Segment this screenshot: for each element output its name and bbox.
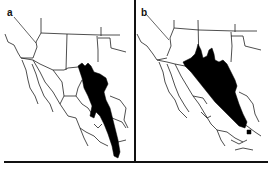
state-border	[167, 28, 174, 56]
figure: a	[0, 0, 269, 171]
state-border	[86, 132, 108, 146]
state-border	[231, 36, 261, 50]
label-leader-line	[146, 14, 169, 40]
state-border	[41, 18, 120, 35]
range-shading-b	[183, 44, 247, 128]
range-outlier-b	[247, 130, 251, 134]
range-shading-a	[78, 63, 120, 158]
state-border	[174, 20, 257, 31]
state-border	[97, 36, 98, 62]
state-border	[94, 124, 102, 128]
panel-b: b	[135, 0, 269, 162]
figure-baseline	[4, 161, 268, 163]
state-border	[193, 96, 207, 104]
panel-label-a: a	[7, 8, 13, 18]
state-border	[66, 34, 67, 70]
state-border	[64, 96, 82, 104]
map-a	[0, 0, 134, 162]
us-mexico-border	[21, 58, 84, 70]
state-border	[231, 32, 232, 62]
gulf-coast	[167, 64, 189, 112]
state-border	[76, 80, 82, 96]
baja-coast	[159, 62, 187, 118]
state-border	[33, 33, 41, 58]
panel-label-b: b	[141, 8, 147, 18]
state-border	[53, 70, 64, 104]
state-border	[211, 124, 225, 146]
baja-coast	[22, 60, 38, 104]
state-border	[235, 148, 253, 150]
coastline	[137, 34, 167, 60]
state-border	[231, 140, 247, 144]
panel-a: a	[0, 0, 134, 162]
state-border	[98, 38, 126, 52]
coastline	[5, 34, 33, 58]
map-b	[135, 0, 269, 162]
label-leader-line	[14, 17, 36, 43]
state-border	[68, 116, 86, 132]
